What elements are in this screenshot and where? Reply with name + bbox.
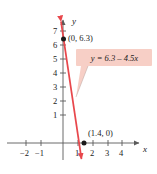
y-tick-label-2: 2 [53, 97, 57, 106]
y-tick-label-6: 6 [53, 41, 57, 50]
y-tick-label-5: 5 [53, 55, 57, 64]
callout-connector [76, 66, 88, 97]
x-tick-label--1: −1 [35, 149, 44, 158]
y-tick-label-7: 7 [53, 27, 57, 36]
x-tick-label-4: 4 [119, 149, 123, 158]
x-tick-label-3: 3 [105, 149, 109, 158]
x-tick-label-2: 2 [90, 149, 94, 158]
y-tick-label-1: 1 [53, 111, 57, 120]
point-label-y-intercept: (0, 6.3) [68, 34, 93, 43]
x-tick-label--2: −2 [20, 149, 29, 158]
marker-y-intercept [61, 37, 66, 42]
equation-label: y = 6.3 – 4.5x [78, 53, 151, 63]
y-axis-label: y [72, 17, 76, 26]
x-axis-label: x [143, 145, 147, 154]
x-tick-label-1: 1 [75, 149, 79, 158]
y-tick-label-4: 4 [53, 69, 57, 78]
marker-x-intercept [82, 141, 87, 146]
point-label-x-intercept: (1.4, 0) [88, 129, 113, 138]
y-tick-label-3: 3 [53, 83, 57, 92]
x-axis [7, 140, 139, 146]
graph-figure: y = 6.3 – 4.5x y x −2 −1 1 2 3 4 7 6 5 4… [0, 0, 157, 174]
